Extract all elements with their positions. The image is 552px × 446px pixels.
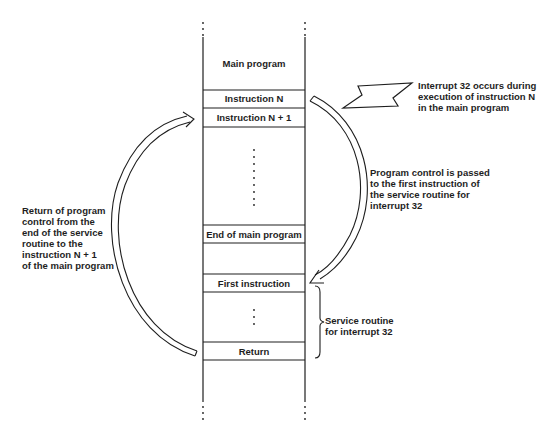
cell-end-of-main-program: End of main program bbox=[203, 229, 305, 240]
annotation-control-passed: Program control is passed to the first i… bbox=[370, 167, 490, 211]
arrow-to-service-routine bbox=[310, 96, 367, 283]
arrow-return-to-main bbox=[111, 112, 197, 356]
interrupt-lightning-icon bbox=[343, 83, 412, 108]
cell-instruction-n: Instruction N bbox=[203, 93, 305, 104]
annotation-return-control: Return of program control from the end o… bbox=[22, 205, 114, 271]
service-routine-brace bbox=[315, 286, 324, 358]
main-program-label: Main program bbox=[203, 58, 305, 69]
annotation-service-routine: Service routine for interrupt 32 bbox=[325, 315, 394, 337]
cell-instruction-n-plus-1: Instruction N + 1 bbox=[203, 112, 305, 123]
cell-return: Return bbox=[203, 346, 305, 357]
cell-first-instruction: First instruction bbox=[203, 278, 305, 289]
annotation-interrupt-occurs: Interrupt 32 occurs during execution of … bbox=[418, 80, 536, 113]
